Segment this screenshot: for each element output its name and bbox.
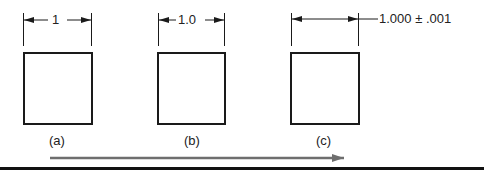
square-part (24, 53, 92, 124)
caption-b: (b) (184, 134, 200, 148)
dimension-text-a: 1 (50, 13, 61, 27)
panel-c (291, 13, 379, 124)
dimension-text-c: 1.000 ± .001 (378, 12, 453, 26)
panel-a (24, 13, 93, 124)
square-part (291, 53, 359, 124)
panel-b (158, 13, 225, 124)
square-part (158, 53, 225, 124)
caption-c: (c) (316, 134, 331, 148)
dimension-text-b: 1.0 (176, 13, 198, 27)
caption-a: (a) (49, 134, 65, 148)
